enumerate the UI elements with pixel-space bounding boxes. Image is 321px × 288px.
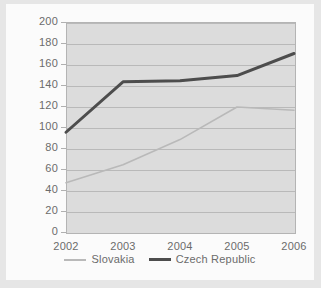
chart-figure: 200180160140120100806040200 200220032004… [0,0,321,288]
line-chart: 200180160140120100806040200 200220032004… [6,4,314,280]
series-line-slovakia [66,107,294,183]
series-layer [6,4,314,280]
legend-label-slovakia: Slovakia [91,254,134,265]
legend-item-slovakia: Slovakia [64,254,134,265]
legend-swatch-czech-republic [149,258,171,261]
legend-item-czech-republic: Czech Republic [149,254,256,265]
chart-page: 200180160140120100806040200 200220032004… [6,4,314,280]
series-line-czech-republic [66,54,294,133]
legend-label-czech-republic: Czech Republic [176,254,256,265]
chart-legend: Slovakia Czech Republic [6,254,314,265]
legend-swatch-slovakia [64,259,86,261]
